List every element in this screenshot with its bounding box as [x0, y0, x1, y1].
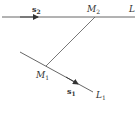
segment-m1-m2	[46, 17, 95, 66]
line-l1-label: L1	[95, 90, 106, 101]
skew-lines-diagram: s2 M2 L2 M1 s1 L1	[0, 0, 135, 115]
vector-s1-arrow	[66, 77, 78, 84]
line-l2-label: L2	[128, 4, 135, 15]
point-m2-label: M2	[86, 4, 100, 15]
vector-s2-label: s2	[32, 4, 41, 15]
line-l1	[20, 52, 93, 92]
point-m1-label: M1	[35, 70, 49, 81]
vector-s1-label: s1	[67, 86, 76, 97]
